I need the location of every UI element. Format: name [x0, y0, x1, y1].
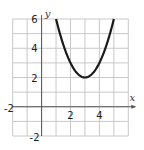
y-tick-label: -2: [30, 132, 40, 143]
x-tick-label: 2: [67, 110, 73, 121]
x-axis-arrow-icon: [131, 105, 136, 109]
x-tick-label: -2: [4, 103, 14, 114]
y-tick-label: 4: [31, 43, 37, 54]
x-tick-label: 4: [96, 110, 102, 121]
x-axis-label: x: [129, 92, 135, 103]
y-tick-label: 6: [31, 14, 37, 25]
y-tick-label: 2: [31, 73, 37, 84]
graph: -2 2 4 6 4 2 -2 x y: [0, 0, 144, 150]
y-axis-label: y: [44, 8, 51, 19]
